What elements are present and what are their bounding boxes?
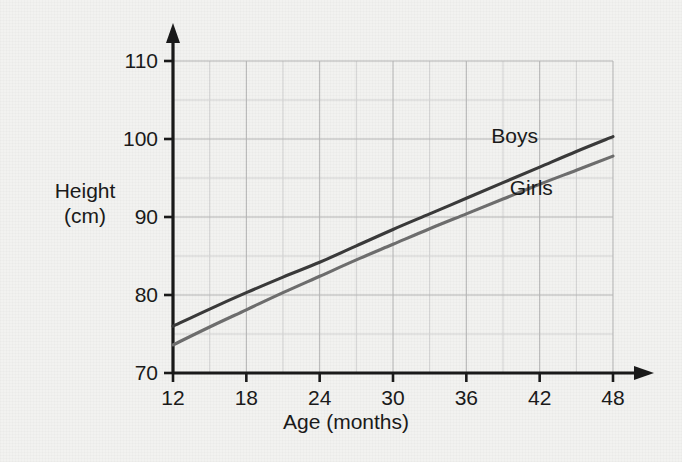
x-axis-tick-label: 42 [517,387,563,408]
x-axis-tick-label: 12 [150,387,196,408]
x-axis-tick-label: 24 [297,387,343,408]
y-axis-tick-label: 100 [112,128,158,149]
growth-chart: Height (cm) Age (months) 708090100110 12… [0,0,682,462]
y-axis-tick-label: 90 [112,206,158,227]
y-axis-tick-label: 70 [112,362,158,383]
gridlines-major [173,61,613,373]
x-axis-tick-label: 18 [223,387,269,408]
arrow-right-icon [634,366,654,380]
x-axis-tick-label: 30 [370,387,416,408]
y-axis-tick-label: 110 [112,50,158,71]
x-axis-title: Age (months) [236,409,456,434]
x-axis-tick-label: 48 [590,387,636,408]
series-label-boys: Boys [491,125,538,146]
x-axis-tick-label: 36 [443,387,489,408]
y-axis-tick-label: 80 [112,284,158,305]
arrow-up-icon [166,23,180,43]
axis-lines [166,23,654,380]
series-label-girls: Girls [510,177,553,198]
y-axis-title-line-1: Height [26,178,144,203]
